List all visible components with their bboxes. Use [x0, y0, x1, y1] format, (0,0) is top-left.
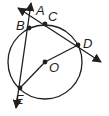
- label-o: O: [49, 60, 59, 75]
- label-d: D: [83, 36, 92, 51]
- label-b: B: [16, 18, 25, 33]
- point-c: [43, 22, 48, 27]
- label-c: C: [48, 9, 58, 24]
- label-e: E: [15, 92, 24, 107]
- geometry-diagram: A B C D E O: [0, 0, 109, 116]
- point-e: [18, 86, 23, 91]
- point-d: [76, 43, 81, 48]
- segment-oe: [20, 62, 45, 88]
- point-o: [43, 60, 48, 65]
- label-a: A: [35, 3, 45, 18]
- point-b: [27, 26, 32, 31]
